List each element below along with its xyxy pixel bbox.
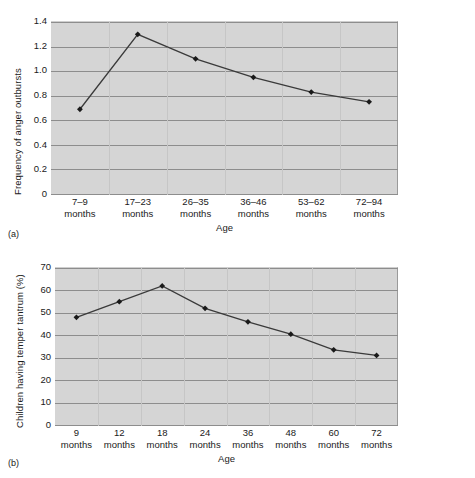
- x-tick-line-2: months: [184, 439, 227, 451]
- x-tick-line-2: months: [55, 439, 98, 451]
- figure-a-y-tick-label: 0.4: [34, 140, 47, 150]
- figure-b-y-tick-label: 40: [40, 330, 51, 340]
- figure-b-x-tick-label: 72months: [355, 427, 398, 450]
- x-tick-line-1: 72: [355, 427, 398, 439]
- x-tick-line-2: months: [312, 439, 355, 451]
- figure-b-temper-tantrum: Children having temper tantrum (%) 70605…: [0, 250, 475, 478]
- figure-b-x-tick-label: 18months: [141, 427, 184, 450]
- figure-a-y-tick-label: 0.6: [34, 115, 47, 125]
- figure-b-x-tick-label: 12months: [98, 427, 141, 450]
- figure-b-x-tick-label: 36months: [227, 427, 270, 450]
- figure-a-x-tick-label: 7–9months: [51, 196, 109, 219]
- x-tick-line-1: 24: [184, 427, 227, 439]
- x-tick-line-1: 12: [98, 427, 141, 439]
- figure-b-y-tick-label: 50: [40, 307, 51, 317]
- figure-b-x-axis-title: Age: [55, 453, 398, 464]
- figure-a-x-tick-label: 53–62months: [282, 196, 340, 219]
- x-tick-line-2: months: [167, 208, 225, 220]
- figure-a-anger-outbursts: Frequency of anger outbursts 1.41.21.00.…: [0, 0, 475, 248]
- figure-a-y-tick-label: 0: [42, 189, 47, 199]
- figure-b-y-tick-label: 70: [40, 262, 51, 272]
- x-tick-line-2: months: [225, 208, 283, 220]
- figure-b-y-tick-label: 60: [40, 285, 51, 295]
- figure-b-y-tick-label: 30: [40, 352, 51, 362]
- figure-a-x-tick-label: 17–23months: [109, 196, 167, 219]
- figure-b-series-svg: [55, 268, 398, 426]
- figure-a-y-tick-label: 0.8: [34, 90, 47, 100]
- figure-b-y-tick-label: 20: [40, 375, 51, 385]
- x-tick-line-2: months: [98, 439, 141, 451]
- figure-a-series-svg: [51, 22, 398, 195]
- figure-b-x-tick-label: 9months: [55, 427, 98, 450]
- figure-b-x-tick-label: 60months: [312, 427, 355, 450]
- x-tick-line-2: months: [141, 439, 184, 451]
- x-tick-line-2: months: [227, 439, 270, 451]
- x-tick-line-2: months: [282, 208, 340, 220]
- x-tick-line-1: 26–35: [167, 196, 225, 208]
- x-tick-line-1: 18: [141, 427, 184, 439]
- x-tick-line-2: months: [269, 439, 312, 451]
- x-tick-line-2: months: [51, 208, 109, 220]
- figure-a-y-tick-label: 1.4: [34, 16, 47, 26]
- figure-b-plot-area: [55, 267, 398, 425]
- figure-b-panel-label: (b): [8, 458, 19, 468]
- figure-b-y-axis-title: Children having temper tantrum (%): [14, 274, 25, 428]
- figure-b-x-tick-label: 48months: [269, 427, 312, 450]
- x-tick-line-1: 7–9: [51, 196, 109, 208]
- x-tick-line-1: 53–62: [282, 196, 340, 208]
- figure-b-y-tick-label: 10: [40, 397, 51, 407]
- figure-a-y-tick-label: 1.0: [34, 65, 47, 75]
- figure-b-y-tick-labels: 706050403020100: [25, 267, 51, 425]
- x-tick-line-1: 36–46: [225, 196, 283, 208]
- x-tick-line-1: 60: [312, 427, 355, 439]
- x-tick-line-1: 36: [227, 427, 270, 439]
- figure-a-panel-label: (a): [8, 229, 19, 239]
- figure-a-x-tick-label: 36–46months: [225, 196, 283, 219]
- x-tick-line-1: 17–23: [109, 196, 167, 208]
- figure-b-x-tick-label: 24months: [184, 427, 227, 450]
- x-tick-line-1: 72–94: [340, 196, 398, 208]
- x-tick-line-1: 48: [269, 427, 312, 439]
- figure-a-y-tick-label: 0.2: [34, 164, 47, 174]
- figure-b-y-tick-label: 0: [46, 420, 51, 430]
- figure-a-x-axis-title: Age: [51, 222, 398, 233]
- x-tick-line-1: 9: [55, 427, 98, 439]
- figure-a-y-tick-labels: 1.41.21.00.80.60.40.20: [21, 21, 47, 194]
- x-tick-line-2: months: [340, 208, 398, 220]
- figure-a-y-tick-label: 1.2: [34, 41, 47, 51]
- figure-a-x-tick-label: 72–94months: [340, 196, 398, 219]
- x-tick-line-2: months: [355, 439, 398, 451]
- figure-a-plot-area: [51, 21, 398, 194]
- x-tick-line-2: months: [109, 208, 167, 220]
- figure-a-x-tick-label: 26–35months: [167, 196, 225, 219]
